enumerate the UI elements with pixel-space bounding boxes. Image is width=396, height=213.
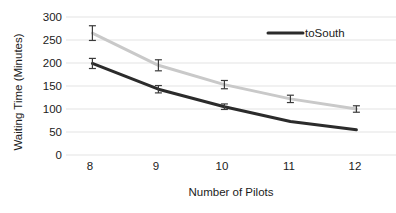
series-line <box>92 63 356 129</box>
y-tick-300: 300 <box>28 11 62 23</box>
chart-legend: toSouth <box>268 27 345 39</box>
y-tick-250: 250 <box>28 34 62 46</box>
y-axis-tick-labels: 300 250 200 150 100 50 0 <box>26 0 62 213</box>
series-layer <box>89 26 360 130</box>
x-tick-11: 11 <box>283 160 295 172</box>
y-tick-150: 150 <box>28 80 62 92</box>
y-tick-200: 200 <box>28 57 62 69</box>
x-axis-title: Number of Pilots <box>66 186 396 198</box>
x-tick-9: 9 <box>153 160 159 172</box>
x-tick-8: 8 <box>87 160 93 172</box>
y-tick-50: 50 <box>28 126 62 138</box>
y-tick-100: 100 <box>28 103 62 115</box>
chart-container: Waiting Time (Minutes) Number of Pilots … <box>0 0 396 213</box>
series-toSouth <box>89 58 357 129</box>
y-tick-0: 0 <box>28 149 62 161</box>
legend-label: toSouth <box>305 27 345 39</box>
x-tick-10: 10 <box>216 160 229 172</box>
x-tick-12: 12 <box>349 160 362 172</box>
series-line <box>92 33 356 109</box>
y-axis-title: Waiting Time (Minutes) <box>12 22 24 162</box>
